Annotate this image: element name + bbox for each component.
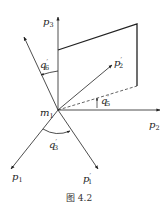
p1-label: p1	[12, 171, 23, 184]
q6prime-label: q′6	[40, 58, 49, 72]
q5prime-label: q′5	[101, 94, 110, 108]
p2prime-label: p′2	[114, 56, 123, 70]
rotated-axis	[24, 37, 58, 110]
p3-label: p3	[43, 16, 54, 29]
p1prime-label: p′1	[83, 172, 92, 186]
plane-dashed-edge	[58, 86, 137, 110]
rotation-vector-diagram: p3 p′2 q′6 q′5 m1 p2 q′3 p1 p′1 图 4.2	[0, 0, 166, 213]
figure-caption: 图 4.2	[66, 193, 92, 203]
p2-label: p2	[149, 119, 160, 132]
q3prime-label: q′3	[49, 138, 58, 152]
q3prime-arc	[43, 129, 70, 134]
q6prime-arc	[41, 71, 58, 75]
p1prime-axis	[58, 110, 98, 169]
m1-label: m1	[40, 107, 54, 120]
